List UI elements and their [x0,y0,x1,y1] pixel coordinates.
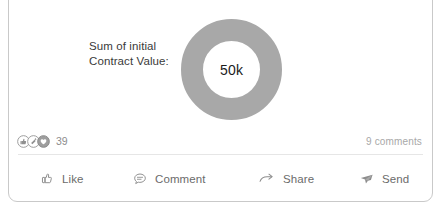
reactions-group[interactable]: 39 [17,135,68,148]
send-button[interactable]: Send [358,161,409,197]
love-reaction-icon [37,135,50,148]
comment-count[interactable]: 9 comments [366,136,422,147]
card-divider [18,154,423,155]
like-button-label: Like [62,173,84,185]
curved-arrow-icon [258,171,276,187]
share-button-label: Share [283,173,314,185]
comment-button[interactable]: Comment [132,161,206,197]
social-counts-row: 39 9 comments [9,129,432,153]
post-card: Sum of initial Contract Value: 50k [8,0,433,202]
reaction-count: 39 [56,135,68,147]
share-button[interactable]: Share [258,161,314,197]
donut-center-value: 50k [181,19,282,120]
like-button[interactable]: Like [39,161,84,197]
thumbs-up-icon [39,171,55,187]
speech-bubble-icon [132,171,148,187]
comment-button-label: Comment [155,173,206,185]
chart-area: Sum of initial Contract Value: 50k [9,0,432,131]
donut-chart: 50k [181,19,282,120]
paper-plane-icon [358,171,375,187]
action-bar: Like Comment Share Send [9,161,432,197]
send-button-label: Send [382,173,409,185]
